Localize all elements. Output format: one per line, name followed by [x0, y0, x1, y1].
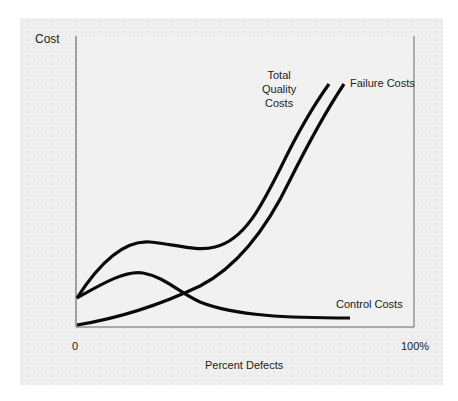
failure-costs-label: Failure Costs	[350, 77, 415, 90]
total-quality-costs-curve	[77, 84, 329, 298]
x-axis-label: Percent Defects	[205, 359, 283, 372]
total-label-line-3: Costs	[262, 96, 296, 110]
total-label-line-1: Total	[262, 68, 296, 82]
control-costs-label: Control Costs	[336, 298, 403, 311]
y-axis-label: Cost	[35, 33, 60, 46]
x-axis-max-tick: 100%	[401, 340, 429, 353]
chart-canvas	[0, 0, 458, 401]
total-quality-costs-label: Total Quality Costs	[262, 68, 296, 110]
x-axis-min-tick: 0	[72, 340, 78, 353]
total-label-line-2: Quality	[262, 82, 296, 96]
